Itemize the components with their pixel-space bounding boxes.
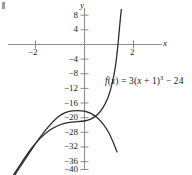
y-tick-label: −40 — [58, 165, 78, 174]
x-tick-label: 2 — [130, 48, 135, 57]
function-graph-figure: y x −2 2 8 4 −4 −8 −12 −16 −20 −28 −32 −… — [0, 0, 192, 175]
y-tick-label: −16 — [58, 99, 78, 108]
inner-expression: (x + 1) — [134, 76, 160, 86]
y-tick-label: −8 — [62, 69, 78, 78]
constant-term: − 24 — [166, 76, 184, 86]
function-equation-label: f(x) = 3(x + 1)3 − 24 — [105, 74, 184, 86]
x-tick-label: −2 — [28, 48, 38, 57]
y-tick-label: −32 — [58, 142, 78, 151]
y-tick-label: −4 — [62, 55, 78, 64]
function-arg-close: ) — [115, 76, 118, 86]
exponent: 3 — [160, 74, 163, 81]
y-tick-label: 4 — [64, 25, 78, 34]
y-tick-label: −28 — [58, 128, 78, 137]
y-axis-label: y — [80, 1, 84, 10]
y-tick-label: −20 — [58, 113, 78, 122]
inner-variable: x — [137, 76, 141, 86]
y-tick-label: −12 — [58, 84, 78, 93]
cubic-function-plot — [0, 0, 192, 175]
x-axis-label: x — [163, 39, 167, 48]
y-tick-label: 8 — [64, 11, 78, 20]
equals-sign: = — [121, 76, 126, 86]
